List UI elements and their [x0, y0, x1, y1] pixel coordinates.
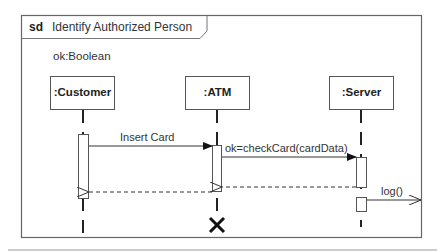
lifeline-customer: [51, 77, 115, 236]
message-label-insert-card: Insert Card: [120, 131, 174, 143]
destruction-icon: [210, 218, 224, 232]
lifeline-label-server: :Server: [329, 86, 394, 98]
local-attribute: ok:Boolean: [53, 50, 111, 62]
activation-server-1: [357, 158, 367, 188]
activation-server-2: [357, 198, 367, 212]
frame-keyword: sd: [29, 20, 43, 34]
message-label-check-card: ok=checkCard(cardData): [225, 142, 348, 154]
sequence-diagram: [0, 0, 442, 251]
lifeline-label-customer: :Customer: [50, 86, 115, 98]
activation-customer: [79, 135, 89, 199]
lifeline-label-atm: :ATM: [185, 86, 250, 98]
activation-atm: [213, 146, 222, 192]
frame-title: Identify Authorized Person: [52, 20, 192, 34]
message-label-log: log(): [381, 185, 403, 197]
lifeline-atm: [186, 77, 250, 233]
